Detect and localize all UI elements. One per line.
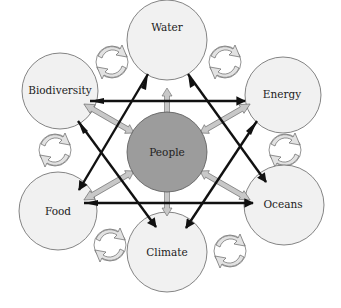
cycle-arrow-water-biodiversity (96, 45, 128, 79)
label-climate: Climate (146, 246, 187, 258)
sustainability-nexus-diagram: Water Energy Oceans Climate Food Biodive… (0, 0, 341, 308)
label-oceans: Oceans (263, 198, 302, 210)
cycle-arrow-climate-food (94, 228, 126, 262)
cycle-arrow-oceans-climate (214, 234, 246, 268)
cycle-arrow-water-energy (209, 45, 241, 79)
label-food: Food (45, 205, 71, 217)
cycle-arrow-food-biodiversity (39, 133, 71, 167)
label-energy: Energy (263, 88, 301, 100)
label-people: People (149, 146, 184, 158)
label-water: Water (151, 21, 184, 33)
node-water (127, 0, 207, 80)
cycle-arrow-energy-oceans (269, 133, 301, 167)
label-biodiversity: Biodiversity (28, 84, 92, 96)
